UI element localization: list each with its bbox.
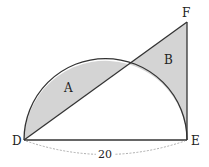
label-region-a: A: [64, 82, 73, 94]
label-point-e: E: [191, 135, 200, 147]
label-region-b: B: [164, 54, 173, 66]
label-dimension-de: 20: [98, 149, 112, 160]
region-b-shade: [128, 22, 187, 140]
label-point-d: D: [12, 135, 22, 147]
label-point-f: F: [182, 7, 190, 19]
geometry-diagram: D E F A B 20: [0, 0, 209, 167]
diagram-canvas: [0, 0, 209, 167]
